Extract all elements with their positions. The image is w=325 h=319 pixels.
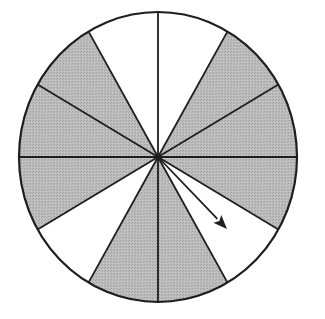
spinner-graphic xyxy=(0,0,325,319)
spinner-hub xyxy=(156,155,161,160)
spinner-diagram xyxy=(0,0,325,319)
